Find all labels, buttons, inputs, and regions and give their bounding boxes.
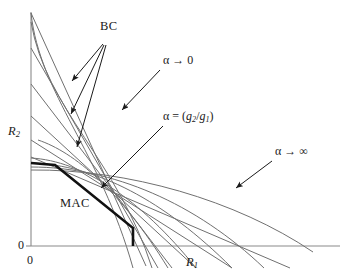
bc-line-1 — [31, 13, 146, 266]
bc-line-6 — [31, 157, 290, 268]
x-axis-origin-label: 0 — [27, 253, 33, 268]
y-axis-label-sub: 2 — [16, 129, 20, 139]
alpha-curve-1 — [31, 13, 133, 268]
bc-arrow-2 — [71, 45, 104, 114]
y-axis-label: R2 — [8, 124, 20, 139]
diagram-svg — [0, 0, 347, 280]
budget-constraint-lines — [31, 13, 290, 268]
alpha-inf-arrow — [236, 161, 272, 188]
alpha-ratio-prefix: α = ( — [163, 109, 186, 123]
x-axis-label-text: R — [186, 255, 194, 269]
alpha-zero-arrow — [122, 70, 160, 110]
x-axis-label: R1 — [186, 255, 198, 270]
mac-label: MAC — [60, 196, 90, 211]
figure-canvas: BC MAC α → 0 α → ∞ α = (g2/g1) R2 R1 0 0 — [0, 0, 347, 280]
x-axis-label-sub: 1 — [194, 260, 198, 270]
alpha-ratio-label: α = (g2/g1) — [163, 109, 214, 124]
alpha-infinity-label: α → ∞ — [275, 144, 308, 159]
alpha-curve-6 — [31, 167, 264, 268]
y-axis-label-text: R — [8, 124, 16, 138]
bc-label: BC — [100, 19, 117, 34]
bc-arrow-3 — [77, 45, 106, 147]
alpha-ratio-suffix: ) — [210, 109, 214, 123]
alpha-ratio-arrow — [101, 126, 163, 188]
y-axis-zero-label: 0 — [18, 238, 24, 253]
bc-arrow-1 — [72, 44, 103, 81]
alpha-zero-label: α → 0 — [163, 53, 193, 68]
